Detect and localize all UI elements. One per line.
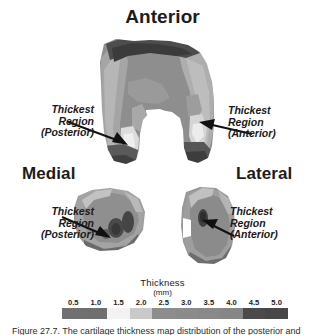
femur-thickness-map (95, 35, 220, 170)
colorbar-swatch-6 (198, 308, 221, 319)
colorbar-tick-2: 1.5 (107, 298, 130, 307)
colorbar-tick-9: 5.0 (265, 298, 288, 307)
callout-line-3: (Anterior) (228, 128, 320, 140)
callout-thickest-anterior-top: Thickest Region (Anterior) (228, 105, 320, 140)
colorbar-swatch-4 (152, 308, 175, 319)
callout-line-1: Thickest (6, 104, 94, 116)
colorbar-tick-labels: 0.51.01.52.02.53.03.54.04.55.0 (62, 298, 288, 307)
colorbar-swatch-5 (175, 308, 198, 319)
colorbar-tick-5: 3.0 (175, 298, 198, 307)
colorbar-units: (mm) (0, 288, 325, 297)
colorbar-tick-8: 4.5 (243, 298, 266, 307)
callout-line-3: (Posterior) (6, 127, 94, 139)
callout-line-3: (Posterior) (2, 229, 94, 241)
callout-thickest-posterior-top: Thickest Region (Posterior) (6, 104, 94, 139)
callout-line-3: (Anterior) (230, 229, 322, 241)
figure-caption: Figure 27.7. The cartilage thickness map… (0, 324, 325, 335)
colorbar-tick-3: 2.0 (130, 298, 153, 307)
colorbar-tick-7: 4.0 (220, 298, 243, 307)
colorbar-tick-0: 0.5 (62, 298, 85, 307)
colorbar-tick-4: 2.5 (152, 298, 175, 307)
figure-canvas: Anterior Medial Lateral (0, 0, 325, 335)
colorbar-title: Thickness (0, 277, 325, 288)
colorbar-swatch-9 (265, 308, 288, 319)
callout-line-1: Thickest (2, 206, 94, 218)
colorbar-swatch-8 (243, 308, 266, 319)
colorbar-swatch-7 (220, 308, 243, 319)
callout-line-1: Thickest (228, 105, 320, 117)
callout-thickest-anterior-bottom: Thickest Region (Anterior) (230, 206, 322, 241)
callout-line-1: Thickest (230, 206, 322, 218)
colorbar-tick-6: 3.5 (198, 298, 221, 307)
colorbar-swatch-2 (107, 308, 130, 319)
colorbar-tick-1: 1.0 (85, 298, 108, 307)
colorbar-gradient (62, 308, 288, 319)
callout-thickest-posterior-bottom: Thickest Region (Posterior) (2, 206, 94, 241)
colorbar-swatch-3 (130, 308, 153, 319)
colorbar-swatch-1 (85, 308, 108, 319)
colorbar-swatch-0 (62, 308, 85, 319)
